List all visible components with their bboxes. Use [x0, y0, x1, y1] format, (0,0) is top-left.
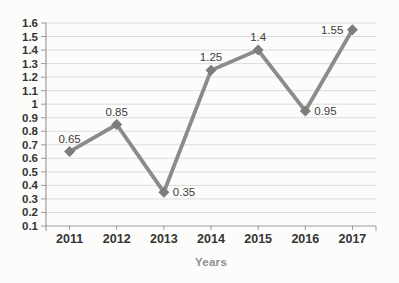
data-label: 0.35 [173, 186, 195, 198]
y-tick-label: 1.2 [22, 71, 38, 83]
y-tick-label: 0.3 [22, 193, 38, 205]
data-label: 1.4 [250, 31, 267, 43]
x-tick-label: 2013 [150, 232, 178, 246]
y-tick-label: 0.7 [22, 139, 38, 151]
data-label: 1.55 [321, 24, 343, 36]
data-label: 1.25 [200, 51, 222, 63]
x-tick-label: 2015 [244, 232, 272, 246]
data-point-marker [206, 65, 217, 76]
y-tick-label: 0.1 [22, 220, 39, 232]
y-tick-label: 0.8 [22, 125, 39, 137]
x-tick-label: 2016 [291, 232, 319, 246]
data-label: 0.65 [58, 133, 80, 145]
x-axis-title: Years [195, 256, 227, 268]
x-tick-label: 2014 [197, 232, 225, 246]
y-tick-label: 0.5 [22, 166, 39, 178]
y-tick-label: 1.5 [22, 31, 39, 43]
line-chart: 1.61.51.41.31.21.110.90.80.70.60.50.40.3… [0, 0, 399, 283]
y-tick-label: 1.4 [22, 44, 39, 56]
y-tick-label: 0.6 [22, 152, 38, 164]
chart-container: 1.61.51.41.31.21.110.90.80.70.60.50.40.3… [0, 0, 399, 283]
y-tick-label: 0.2 [22, 206, 38, 218]
data-label: 0.95 [314, 105, 336, 117]
y-tick-label: 0.4 [22, 179, 39, 191]
chart-layers: 1.61.51.41.31.21.110.90.80.70.60.50.40.3… [22, 17, 376, 246]
x-tick-label: 2012 [103, 232, 131, 246]
y-tick-label: 1.3 [22, 58, 38, 70]
y-tick-label: 1 [32, 98, 39, 110]
data-label: 0.85 [106, 106, 128, 118]
x-tick-label: 2011 [56, 232, 83, 246]
y-tick-label: 0.9 [22, 112, 38, 124]
y-tick-label: 1.6 [22, 17, 38, 29]
y-tick-label: 1.1 [22, 85, 39, 97]
x-tick-label: 2017 [339, 232, 367, 246]
